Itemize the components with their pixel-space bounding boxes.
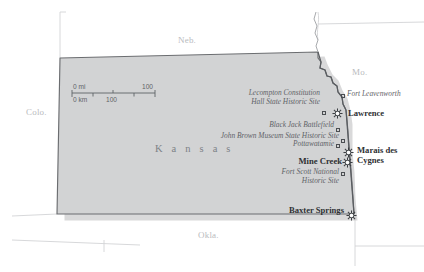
scale-bar-miles-unit: 0 mi [73, 83, 85, 90]
city-label-baxter-springs: Baxter Springs [274, 206, 344, 216]
scale-bar-km-mid: 100 [106, 96, 117, 103]
site-label-line-2: Historic Site [277, 177, 339, 186]
site-marker-pottawatamie[interactable] [336, 144, 340, 148]
kansas-historic-sites-map: Neb. Mo. Colo. Okla. K a n s a s 0 mi 10… [0, 0, 424, 272]
neighbor-label-missouri: Mo. [352, 68, 367, 78]
site-label-black-jack-battlefield: Black Jack Battlefield [256, 121, 334, 130]
site-marker-fort-leavenworth[interactable] [341, 94, 345, 98]
neighbor-label-oklahoma: Okla. [198, 231, 219, 241]
city-label-lawrence: Lawrence [348, 109, 384, 119]
site-marker-fort-scott-national-historic-site[interactable] [341, 172, 345, 176]
star-marker-lawrence[interactable] [332, 108, 343, 119]
site-label-pottawatamie: Pottawatamie [280, 140, 334, 149]
scale-bar-km-unit: 0 km [73, 96, 87, 103]
site-marker-lecompton-constitution-hall[interactable] [322, 111, 326, 115]
neighbor-label-nebraska: Neb. [178, 36, 196, 46]
site-label-lecompton-constitution-hall: Lecompton Constitution Hall State Histor… [222, 89, 320, 106]
site-label-fort-scott-national-historic-site: Fort Scott National Historic Site [277, 168, 339, 185]
site-marker-john-brown-museum[interactable] [341, 139, 345, 143]
city-label-marais-des-cygnes: Marais des Cygnes [357, 146, 397, 165]
city-label-mine-creek: Mine Creek [286, 157, 342, 167]
site-label-line-2: Hall State Historic Site [222, 98, 320, 107]
city-label-line-2: Cygnes [357, 156, 397, 166]
star-marker-mine-creek[interactable] [342, 157, 353, 168]
neighbor-label-colorado: Colo. [26, 108, 47, 118]
site-label-fort-leavenworth: Fort Leavenworth [347, 90, 401, 99]
state-name-label-kansas: K a n s a s [155, 143, 234, 154]
star-marker-baxter-springs[interactable] [346, 210, 357, 221]
scale-bar-miles-max: 100 [142, 83, 153, 90]
